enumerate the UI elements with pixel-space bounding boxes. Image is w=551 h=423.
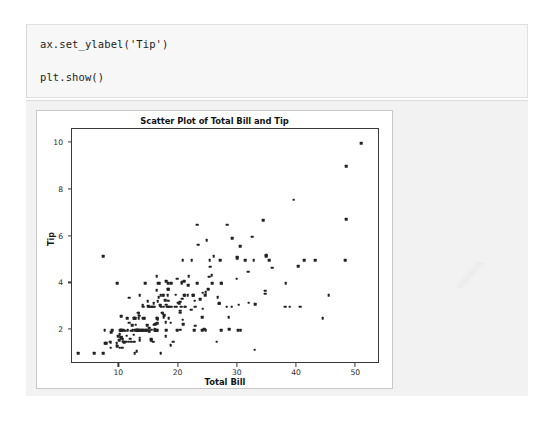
x-tick-mark [236, 363, 237, 367]
x-tick-mark [118, 363, 119, 367]
scatter-point [170, 305, 173, 308]
scatter-point [138, 312, 141, 315]
scatter-point [181, 297, 184, 300]
scatter-point [142, 305, 145, 308]
scatter-point [264, 290, 267, 293]
scatter-point [132, 333, 135, 336]
scatter-point [211, 282, 214, 285]
scatter-point [105, 342, 108, 345]
scatter-point [253, 348, 256, 351]
scatter-point [134, 317, 137, 320]
scatter-point [125, 334, 128, 337]
scatter-point [219, 259, 222, 262]
scatter-point [151, 305, 154, 308]
x-axis-label: Total Bill [71, 377, 379, 387]
scatter-point [156, 300, 159, 303]
scatter-point [164, 335, 167, 338]
scatter-point [146, 300, 149, 303]
scatter-point [271, 266, 274, 269]
scatter-point [345, 218, 348, 221]
scatter-point [183, 305, 186, 308]
scatter-point [360, 142, 363, 145]
scatter-point [126, 317, 129, 320]
scatter-point [327, 294, 330, 297]
scatter-point [172, 340, 175, 343]
scatter-point [136, 329, 139, 332]
scatter-point [126, 329, 129, 332]
code-line: ax.set_ylabel('Tip') [40, 38, 168, 50]
x-tick-label: 20 [173, 368, 183, 377]
scatter-point [138, 294, 141, 297]
scatter-point [121, 346, 124, 349]
scatter-point [248, 301, 251, 304]
scatter-point [174, 305, 177, 308]
scatter-point [128, 340, 131, 343]
scatter-point [187, 284, 190, 287]
scatter-point [237, 329, 240, 332]
scatter-point [194, 325, 197, 328]
scatter-point [179, 329, 182, 332]
scatter-point [239, 329, 242, 332]
code-line: plt.show() [40, 71, 104, 83]
scatter-point [239, 245, 242, 248]
scatter-point [167, 288, 170, 291]
scatter-point [226, 305, 229, 308]
scatter-point [207, 288, 210, 291]
x-tick-label: 40 [291, 368, 301, 377]
scatter-point [139, 329, 142, 332]
scatter-point [133, 352, 136, 355]
scatter-point [162, 316, 165, 319]
scatter-point [155, 289, 158, 292]
scatter-point [237, 303, 240, 306]
scatter-point [103, 329, 106, 332]
scatter-point [108, 340, 111, 343]
scatter-point [116, 282, 119, 285]
scatter-point [102, 352, 105, 355]
scatter-point [169, 344, 172, 347]
scatter-point [150, 337, 153, 340]
scatter-point [196, 282, 199, 285]
y-tick-label: 8 [49, 184, 63, 193]
scatter-point [163, 305, 166, 308]
scatter-point [110, 331, 113, 334]
scatter-point [209, 259, 212, 262]
scatter-point [183, 280, 186, 283]
scatter-point [156, 275, 159, 278]
scatter-point [297, 265, 300, 268]
matplotlib-figure: Scatter Plot of Total Bill and Tip Tip T… [36, 110, 393, 389]
scatter-point [165, 329, 168, 332]
scatter-point [254, 303, 257, 306]
scatter-point [220, 329, 223, 332]
scatter-point [170, 282, 173, 285]
scatter-point [137, 317, 140, 320]
scatter-point [162, 294, 165, 297]
scatter-point [178, 302, 181, 305]
scatter-point [220, 282, 223, 285]
scatter-point [138, 339, 141, 342]
scatter-point [191, 259, 194, 262]
scatter-point [216, 296, 219, 299]
x-tick-label: 50 [350, 368, 360, 377]
scatter-point [93, 352, 96, 355]
scatter-point [170, 322, 173, 325]
scatter-point [180, 305, 183, 308]
scatter-point [133, 340, 136, 343]
scatter-point [236, 255, 239, 258]
scatter-point [227, 316, 230, 319]
scatter-point [151, 328, 154, 331]
scatter-point [144, 282, 147, 285]
scatter-point [181, 259, 184, 262]
scatter-point [183, 294, 186, 297]
scatter-point [299, 305, 302, 308]
scatter-point [230, 305, 233, 308]
scatter-point [265, 255, 268, 258]
scatter-point [159, 352, 162, 355]
scatter-point [174, 293, 177, 296]
notebook-code-cell[interactable]: ax.set_ylabel('Tip') plt.show() [26, 24, 528, 98]
scatter-point [119, 346, 122, 349]
scatter-point [122, 338, 125, 341]
y-tick-label: 4 [49, 278, 63, 287]
scatter-point [190, 308, 193, 311]
scatter-point [102, 255, 105, 258]
scatter-point [262, 219, 265, 222]
